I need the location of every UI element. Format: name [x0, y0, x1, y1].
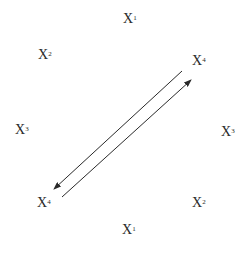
- arrows-layer: [0, 0, 249, 254]
- arrow-ur-to-ll: [54, 71, 182, 189]
- diagram-canvas: X1 X2 X4 X3 X3 X4 X2 X1: [0, 0, 249, 254]
- arrow-ll-to-ur: [62, 80, 191, 197]
